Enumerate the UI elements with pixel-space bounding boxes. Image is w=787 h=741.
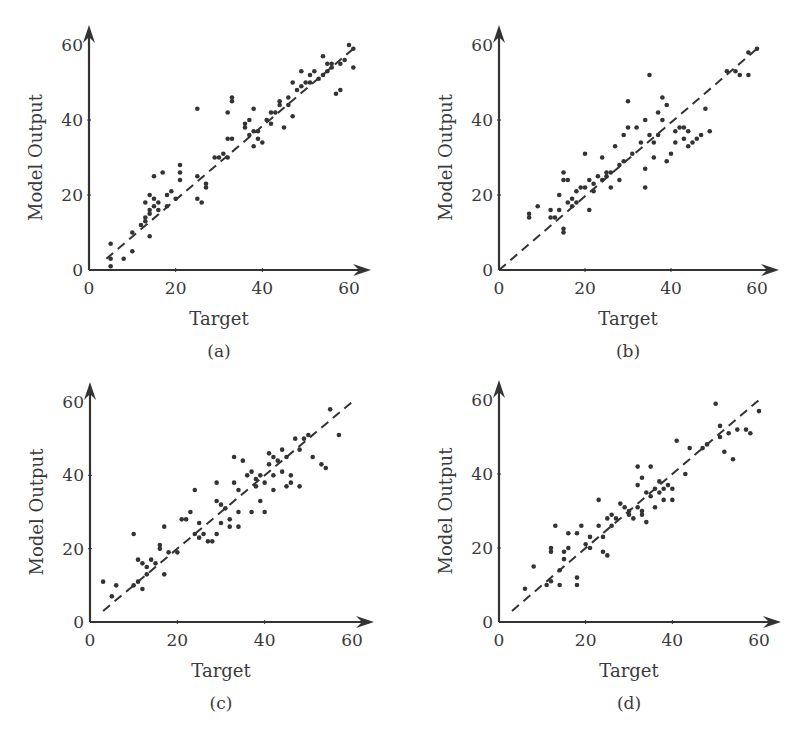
data-point [139, 223, 144, 228]
data-point [236, 510, 241, 515]
data-point [308, 80, 313, 85]
data-point [131, 532, 136, 537]
data-point [634, 125, 639, 130]
data-point [262, 480, 267, 485]
data-point [193, 532, 198, 537]
data-point [152, 174, 157, 179]
data-point [321, 73, 326, 78]
data-point [661, 498, 666, 503]
y-axis-label: Model Output [435, 93, 456, 221]
data-point [705, 442, 710, 447]
data-point [605, 553, 610, 558]
data-point [561, 170, 566, 175]
data-point [351, 65, 356, 70]
data-point [682, 136, 687, 141]
y-tick-label: 20 [61, 185, 83, 205]
data-point [328, 407, 333, 412]
data-point [531, 564, 536, 569]
data-point [325, 61, 330, 66]
data-point [230, 95, 235, 100]
y-tick-label: 60 [471, 35, 493, 55]
y-tick-label: 40 [471, 464, 493, 484]
data-point [195, 106, 200, 111]
data-point [165, 204, 170, 209]
data-point [527, 215, 532, 220]
x-tick-label: 20 [165, 278, 187, 298]
data-point [644, 520, 649, 525]
data-point [290, 80, 295, 85]
data-point [184, 517, 189, 522]
data-point [626, 99, 631, 104]
data-point [733, 69, 738, 74]
data-points [108, 43, 355, 269]
data-point [660, 118, 665, 123]
data-point [269, 110, 274, 115]
data-point [548, 215, 553, 220]
scatter-panel-b: 02040600204060TargetModel Output(b) [394, 0, 787, 370]
reference-dashed-line [103, 402, 352, 611]
data-point [178, 163, 183, 168]
data-point [660, 95, 665, 100]
data-point [149, 557, 154, 562]
data-point [241, 458, 246, 463]
data-point [158, 543, 163, 548]
data-point [635, 505, 640, 510]
data-point [144, 572, 149, 577]
data-point [722, 450, 727, 455]
data-point [591, 181, 596, 186]
data-point [621, 159, 626, 164]
data-point [664, 159, 669, 164]
panel-caption: (d) [617, 693, 641, 713]
data-point [284, 455, 289, 460]
data-point [690, 140, 695, 145]
data-point [254, 484, 259, 489]
data-point [277, 99, 282, 104]
data-point [657, 490, 662, 495]
data-point [140, 561, 145, 566]
x-tick-label: 0 [494, 278, 505, 298]
data-point [319, 462, 324, 467]
data-point [657, 479, 662, 484]
data-point [299, 69, 304, 74]
data-point [609, 524, 614, 529]
data-point [670, 498, 675, 503]
data-point [686, 129, 691, 134]
data-point [219, 502, 224, 507]
data-point [635, 464, 640, 469]
data-point [156, 208, 161, 213]
data-point [656, 133, 661, 138]
y-tick-label: 0 [482, 260, 493, 280]
data-point [144, 565, 149, 570]
data-point [236, 524, 241, 529]
data-point [587, 208, 592, 213]
data-points [101, 407, 341, 599]
data-point [316, 76, 321, 81]
data-point [284, 484, 289, 489]
data-point [549, 549, 554, 554]
data-point [583, 542, 588, 547]
data-point [297, 484, 302, 489]
data-point [713, 401, 718, 406]
data-point [273, 110, 278, 115]
data-point [310, 455, 315, 460]
data-point [108, 264, 113, 269]
data-point [648, 464, 653, 469]
data-point [553, 215, 558, 220]
x-axis-label: Target [599, 660, 659, 681]
panel-caption: (c) [210, 693, 233, 713]
data-point [578, 185, 583, 190]
data-point [329, 61, 334, 66]
data-point [225, 136, 230, 141]
data-point [147, 234, 152, 239]
data-point [600, 178, 605, 183]
x-tick-label: 0 [85, 630, 96, 650]
data-point [258, 499, 263, 504]
data-point [351, 46, 356, 51]
data-point [735, 427, 740, 432]
data-point [570, 196, 575, 201]
data-point [670, 487, 675, 492]
x-tick-label: 40 [252, 278, 274, 298]
data-point [295, 88, 300, 93]
data-point [561, 178, 566, 183]
data-point [299, 84, 304, 89]
